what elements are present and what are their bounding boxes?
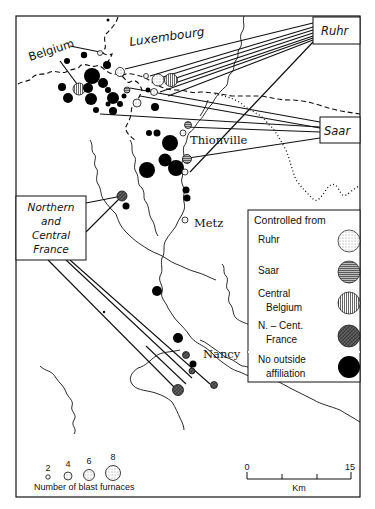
furnace-marker-saar [185,122,192,129]
size-label-6: 6 [86,456,91,466]
furnace-marker-none [190,361,197,368]
furnace-marker-none [107,19,110,22]
label-luxembourg: Luxembourg [128,25,205,49]
furnace-marker-none [93,107,99,113]
ruhr-box: Ruhr [313,17,360,44]
furnace-marker-none [81,52,87,58]
scale-bar: 0 15 Km [244,462,355,493]
ruhr-box-label: Ruhr [321,24,350,38]
size-swatch-8 [106,466,121,481]
furnace-marker-none [162,135,178,151]
furnace-marker-belgium [165,74,178,87]
furnace-marker-none [109,107,117,115]
scale-start: 0 [244,462,249,472]
furnace-marker-none [103,61,111,69]
legend-belgium-swatch [338,292,360,314]
control-legend-lower: No outside affiliation [248,352,360,382]
saar-links [100,88,320,159]
furnace-marker-none [84,68,100,84]
furnace-marker-ruhr [151,89,158,96]
furnace-marker-ruhr [180,130,186,136]
furnace-marker-france [189,368,195,374]
size-swatch-6 [84,470,95,481]
saar-box-label: Saar [324,124,351,138]
furnace-marker-ruhr [98,51,103,56]
legend-france-label-2: France [266,334,298,345]
furnace-marker-none [168,160,184,176]
furnace-marker-ruhr [133,99,141,107]
furnace-marker-none [123,203,130,210]
legend-saar-swatch [338,261,360,283]
furnace-marker-none [139,162,155,178]
furnace-marker-none [103,311,105,313]
furnace-marker-none [63,93,73,103]
map-canvas: Belgium Luxembourg Ruhr Saar Northern an… [0,0,375,509]
furnace-marker-none [151,103,159,111]
furnace-marker-none [152,286,162,296]
legend-none-swatch [338,356,360,378]
size-label-2: 2 [45,463,50,473]
furnace-marker-none [64,58,70,64]
furnace-marker-none [85,93,97,105]
furnace-marker-ruhr [144,74,149,79]
furnace-marker-saar [183,155,192,164]
legend-belgium-label-2: Belgium [266,302,302,313]
furnace-marker-none [83,83,93,93]
size-legend-title: Number of blast furnaces [34,482,135,492]
town-thionville: Thionville [190,133,248,147]
size-swatch-4 [64,472,72,480]
legend-ruhr-swatch [338,230,360,252]
furnace-marker-none [58,83,66,91]
control-legend: Controlled from Ruhr Saar Central Belgiu… [248,210,360,352]
legend-france-swatch [338,325,360,347]
legend-ruhr-label: Ruhr [258,234,280,245]
france-box-line-3: Central [32,229,70,241]
scale-unit: Km [292,483,306,493]
france-box: Northern and Central France [16,196,86,260]
legend-saar-label: Saar [258,265,280,276]
town-metz: Metz [194,216,223,230]
furnace-marker-france [183,352,190,359]
france-box-line-2: and [41,215,61,227]
legend-none-label-1: No outside [258,354,306,365]
furnace-marker-none [105,87,111,93]
furnace-marker-ruhr [116,68,125,77]
furnace-marker-france [211,382,218,389]
furnace-marker-none [184,195,191,202]
size-swatch-2 [46,475,50,479]
size-label-4: 4 [65,459,70,469]
legend-france-label-1: N. – Cent. [258,320,303,331]
france-box-line-4: France [33,243,69,255]
town-nancy: Nancy [203,347,241,361]
furnace-marker-none [173,333,183,343]
france-box-line-1: Northern [28,201,75,213]
furnace-marker-ruhr [182,217,188,223]
furnace-marker-ruhr [152,74,164,86]
furnace-marker-none [122,94,127,99]
size-label-8: 8 [110,452,115,462]
saar-border [215,94,360,200]
furnace-marker-saar [124,87,130,93]
furnace-marker-none [183,187,190,194]
furnace-marker-france [173,385,184,396]
furnace-marker-none [146,88,151,93]
scale-end: 15 [345,462,355,472]
size-legend: 2 4 6 8 Number of blast furnaces [34,452,135,492]
saar-box: Saar [320,117,360,143]
furnace-marker-none [117,101,123,107]
legend-belgium-label-1: Central [258,288,290,299]
control-legend-title: Controlled from [254,214,326,226]
furnace-marker-france [117,191,127,201]
furnace-marker-none [106,102,111,107]
legend-none-label-2: affiliation [266,368,305,379]
furnace-marker-none [146,130,152,136]
furnace-marker-none [154,130,161,137]
furnace-marker-ruhr [182,169,188,175]
furnace-marker-none [98,78,108,88]
